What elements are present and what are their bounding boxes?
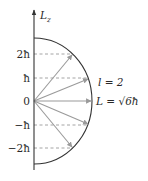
tick-label-zero: 0 bbox=[23, 95, 30, 107]
vector-m1-arrow-icon bbox=[34, 79, 88, 101]
vector-mneg1-arrow-icon bbox=[34, 101, 88, 124]
angular-momentum-vectors bbox=[34, 55, 91, 147]
angular-momentum-diagram: Lz 2ħ ħ 0 −ħ −2ħ l = 2 L = √6ħ bbox=[0, 0, 148, 181]
tick-label-hbar: ħ bbox=[23, 72, 30, 84]
tick-label-neg-hbar: −ħ bbox=[14, 119, 30, 131]
vector-mneg2-arrow-icon bbox=[34, 101, 72, 147]
tick-label-2hbar: 2ħ bbox=[17, 48, 31, 60]
magnitude-label: L = √6ħ bbox=[95, 95, 139, 107]
lz-axis-label: Lz bbox=[39, 9, 51, 24]
tick-label-neg-2hbar: −2ħ bbox=[8, 142, 30, 154]
quantum-number-label: l = 2 bbox=[98, 76, 124, 88]
